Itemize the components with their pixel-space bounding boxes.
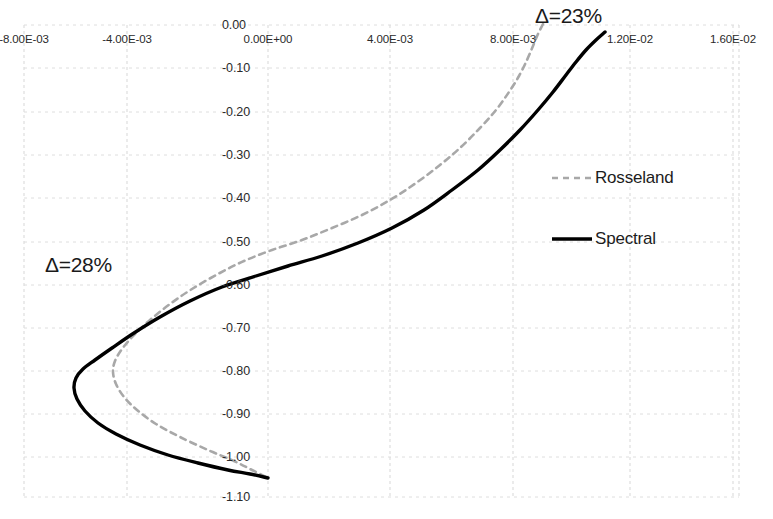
- legend-label-rosseland: Rosseland: [595, 168, 674, 188]
- legend-entry-rosseland: Rosseland: [551, 168, 674, 188]
- y-tick-label: -0.10: [222, 61, 250, 75]
- plot-canvas: [0, 0, 773, 519]
- x-tick-label: 1.60E-02: [710, 33, 756, 45]
- legend-label-spectral: Spectral: [595, 229, 656, 249]
- y-tick-label: -0.70: [222, 321, 250, 335]
- gridlines: [24, 25, 739, 497]
- x-tick-label: -4.00E-03: [102, 33, 152, 45]
- solid-line-icon: [551, 233, 593, 245]
- y-tick-label: -0.50: [222, 235, 250, 249]
- y-tick-label: -0.30: [222, 148, 250, 162]
- y-tick-label: 0.00: [222, 18, 246, 32]
- x-tick-label: 0.00E+00: [244, 33, 293, 45]
- chart-container: -8.00E-03-4.00E-030.00E+004.00E-038.00E-…: [0, 0, 773, 519]
- x-tick-label: 1.20E-02: [607, 33, 653, 45]
- y-tick-label: -1.10: [222, 490, 250, 504]
- series-line-rosseland: [113, 24, 543, 478]
- y-tick-label: -0.20: [222, 105, 250, 119]
- y-tick-label: -0.40: [222, 191, 250, 205]
- x-tick-label: 8.00E-03: [490, 33, 536, 45]
- series-line-spectral: [74, 32, 605, 478]
- x-tick-label: -8.00E-03: [0, 33, 49, 45]
- y-tick-label: -0.80: [222, 364, 250, 378]
- series-lines: [74, 24, 605, 478]
- y-tick-label: -0.60: [222, 278, 250, 292]
- chart-annotation: Δ=23%: [535, 4, 602, 28]
- legend-entry-spectral: Spectral: [551, 229, 656, 249]
- y-tick-label: -0.90: [222, 407, 250, 421]
- x-tick-label: 4.00E-03: [367, 33, 413, 45]
- dashed-line-icon: [551, 172, 593, 184]
- y-tick-label: -1.00: [222, 450, 250, 464]
- chart-annotation: Δ=28%: [45, 253, 112, 277]
